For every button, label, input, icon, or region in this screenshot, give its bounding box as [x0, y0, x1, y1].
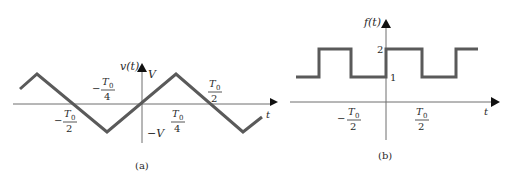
panel-b: f(t) 2 1 t − T 0 2 T 0 2 (b): [270, 16, 500, 161]
panel-b-tick-half-period: T 0 2: [415, 106, 429, 132]
svg-text:0: 0: [355, 112, 359, 120]
svg-text:0: 0: [216, 84, 220, 92]
panel-b-y-axis-label: f(t): [363, 16, 381, 29]
svg-text:0: 0: [179, 114, 183, 122]
svg-text:4: 4: [104, 91, 110, 102]
panel-b-level-high: 2: [377, 44, 383, 55]
panel-b-y-arrow-icon: [381, 19, 391, 28]
panel-b-tick-neg-half-period: − T 0 2: [337, 106, 361, 132]
panel-a-tick-neg-half-period: − T 0 2: [54, 108, 77, 134]
svg-text:2: 2: [211, 93, 217, 104]
svg-text:−: −: [54, 115, 62, 126]
svg-text:2: 2: [350, 121, 356, 132]
panel-b-level-low: 1: [390, 72, 396, 83]
panel-a-tick-half-period: T 0 2: [208, 78, 222, 104]
panel-a: v(t) V −V t − T 0 4 T 0 4 − T 0 2 T: [13, 60, 271, 171]
svg-text:−: −: [92, 83, 100, 94]
svg-text:4: 4: [174, 123, 180, 134]
panel-a-amplitude-negative: −V: [147, 127, 165, 140]
svg-text:−: −: [337, 113, 345, 124]
panel-b-caption: (b): [378, 150, 392, 161]
svg-text:0: 0: [423, 112, 427, 120]
panel-a-amplitude-positive: V: [148, 68, 157, 81]
panel-a-tick-neg-quarter-period: − T 0 4: [92, 76, 115, 102]
panel-b-x-arrow-icon: [491, 97, 500, 107]
panel-b-x-axis-label: t: [484, 106, 489, 117]
panel-b-left-arrow-fragment-icon: [270, 98, 278, 106]
panel-a-tick-quarter-period: T 0 4: [171, 108, 185, 134]
svg-text:2: 2: [418, 121, 424, 132]
svg-text:2: 2: [66, 123, 72, 134]
panel-a-x-axis-label: t: [266, 109, 271, 120]
svg-text:0: 0: [71, 114, 75, 122]
svg-text:0: 0: [109, 82, 113, 90]
panel-a-y-axis-label: v(t): [120, 60, 139, 73]
panel-a-caption: (a): [135, 160, 149, 171]
figure: v(t) V −V t − T 0 4 T 0 4 − T 0 2 T: [0, 0, 506, 196]
panel-b-square-waveform: [296, 49, 478, 77]
